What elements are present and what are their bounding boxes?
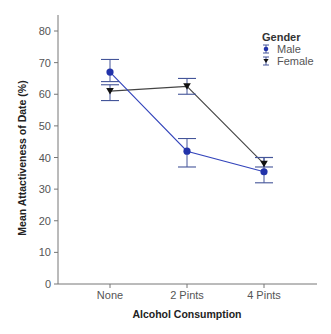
x-tick-label: 4 Pints xyxy=(247,289,281,301)
line-chart: 01020304050607080 None2 Pints4 Pints Alc… xyxy=(0,0,331,334)
y-tick-label: 80 xyxy=(39,25,51,37)
y-tick-label: 40 xyxy=(39,152,51,164)
legend-item-female: Female xyxy=(263,55,314,67)
legend-label: Male xyxy=(277,43,301,55)
x-tick-label: 2 Pints xyxy=(170,289,204,301)
y-tick-label: 60 xyxy=(39,88,51,100)
y-tick-label: 30 xyxy=(39,183,51,195)
legend-item-male: Male xyxy=(263,43,301,55)
y-axis-title: Mean Attactiveness of Date (%) xyxy=(16,80,28,235)
y-tick-label: 10 xyxy=(39,246,51,258)
legend-title: Gender xyxy=(262,31,301,43)
circle-errorbar-icon xyxy=(263,45,269,53)
y-tick-label: 50 xyxy=(39,120,51,132)
triangle-errorbar-icon xyxy=(263,57,269,65)
male-data-point xyxy=(183,148,190,155)
female-data-point xyxy=(260,161,268,168)
legend-label: Female xyxy=(277,55,314,67)
y-axis-ticks: 01020304050607080 xyxy=(39,25,58,290)
y-tick-label: 0 xyxy=(45,278,51,290)
y-tick-label: 70 xyxy=(39,57,51,69)
male-data-point xyxy=(106,69,113,76)
male-data-point xyxy=(260,168,267,175)
y-tick-label: 20 xyxy=(39,215,51,227)
x-tick-label: None xyxy=(97,289,123,301)
legend: Gender MaleFemale xyxy=(262,31,314,67)
data-series xyxy=(101,59,273,182)
x-axis-ticks: None2 Pints4 Pints xyxy=(97,284,281,301)
x-axis-title: Alcohol Consumption xyxy=(132,308,241,320)
